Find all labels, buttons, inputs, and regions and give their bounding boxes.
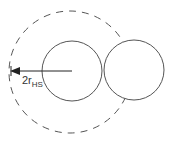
- diagram-canvas: 2rHS: [0, 0, 173, 142]
- hard-sphere-right: [104, 40, 164, 100]
- radius-label: 2rHS: [22, 74, 43, 89]
